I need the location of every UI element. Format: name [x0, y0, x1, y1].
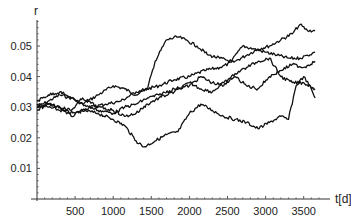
series-lines — [37, 24, 315, 147]
series-line-3 — [37, 77, 315, 147]
x-tick-label: 3500 — [291, 205, 315, 217]
y-tick-label: 0.02 — [11, 132, 32, 144]
y-tick-label: 0.04 — [11, 71, 32, 83]
y-tick-label: 0.01 — [11, 162, 32, 174]
x-tick-label: 500 — [66, 205, 84, 217]
ticks: 5001000150020002500300035000.010.020.030… — [11, 22, 319, 217]
x-tick-label: 2000 — [177, 205, 201, 217]
series-line-4 — [37, 58, 315, 114]
line-chart: t[d] r 5001000150020002500300035000.010.… — [0, 0, 351, 223]
y-tick-label: 0.05 — [11, 40, 32, 52]
x-tick-label: 2500 — [215, 205, 239, 217]
x-tick-label: 1000 — [101, 205, 125, 217]
x-axis-label: t[d] — [335, 192, 351, 206]
axes: t[d] r — [31, 4, 351, 206]
series-line-5 — [37, 61, 315, 116]
x-tick-label: 1500 — [139, 205, 163, 217]
y-axis-label: r — [34, 4, 38, 18]
y-tick-label: 0.03 — [11, 101, 32, 113]
x-tick-label: 3000 — [253, 205, 277, 217]
